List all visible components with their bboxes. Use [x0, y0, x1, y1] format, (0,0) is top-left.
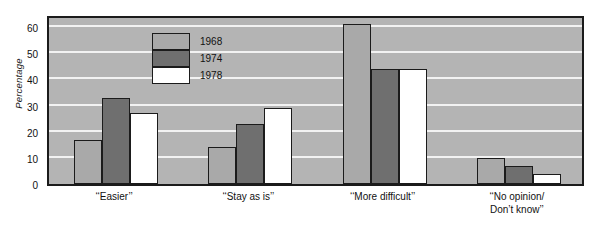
legend-label-1968: 1968 [200, 36, 222, 47]
gridline [49, 77, 582, 79]
legend-label-1978: 1978 [200, 70, 222, 81]
bar-1974-group-3 [505, 166, 533, 184]
y-axis-tick-label: 10 [27, 155, 38, 165]
legend-swatch-1978 [152, 67, 190, 84]
legend-item: 1978 [152, 67, 262, 84]
bar-1974-group-1 [236, 124, 264, 184]
bar-1968-group-0 [74, 140, 102, 184]
x-axis-label-0: ‘‘Easier’’ [47, 190, 181, 203]
bar-1978-group-3 [533, 174, 561, 184]
bar-1968-group-2 [343, 24, 371, 184]
legend-item: 1968 [152, 33, 262, 50]
y-axis-tick-label: 0 [32, 181, 38, 191]
bar-1974-group-2 [371, 69, 399, 184]
bar-1968-group-1 [208, 147, 236, 184]
y-axis-tick-label: 20 [27, 129, 38, 139]
legend: 1968 1974 1978 [152, 33, 262, 84]
y-axis-tick-labels: 0102030405060 [0, 0, 44, 233]
bar-1978-group-2 [399, 69, 427, 184]
bar-1974-group-0 [102, 98, 130, 184]
gridline [49, 25, 582, 27]
legend-swatch-1968 [152, 33, 190, 50]
plot-area: 1968 1974 1978 [47, 16, 584, 186]
y-axis-tick-label: 50 [27, 50, 38, 60]
legend-swatch-1974 [152, 50, 190, 67]
x-axis-label-1: ‘‘Stay as is’’ [181, 190, 315, 203]
bar-1978-group-1 [264, 108, 292, 184]
x-axis-label-3: ‘‘No opinion/ Don’t know’’ [450, 190, 584, 216]
y-axis-tick-label: 40 [27, 76, 38, 86]
legend-item: 1974 [152, 50, 262, 67]
y-axis-tick-label: 30 [27, 103, 38, 113]
x-axis-category-labels: ‘‘Easier’’‘‘Stay as is’’‘‘More difficult… [47, 190, 584, 230]
bar-chart: Percentage 0102030405060 1968 1974 1978 … [0, 0, 609, 233]
gridline [49, 51, 582, 53]
legend-label-1974: 1974 [200, 53, 222, 64]
x-axis-label-2: ‘‘More difficult’’ [316, 190, 450, 203]
bar-1968-group-3 [477, 158, 505, 184]
y-axis-tick-label: 60 [27, 24, 38, 34]
bar-1978-group-0 [130, 113, 158, 184]
